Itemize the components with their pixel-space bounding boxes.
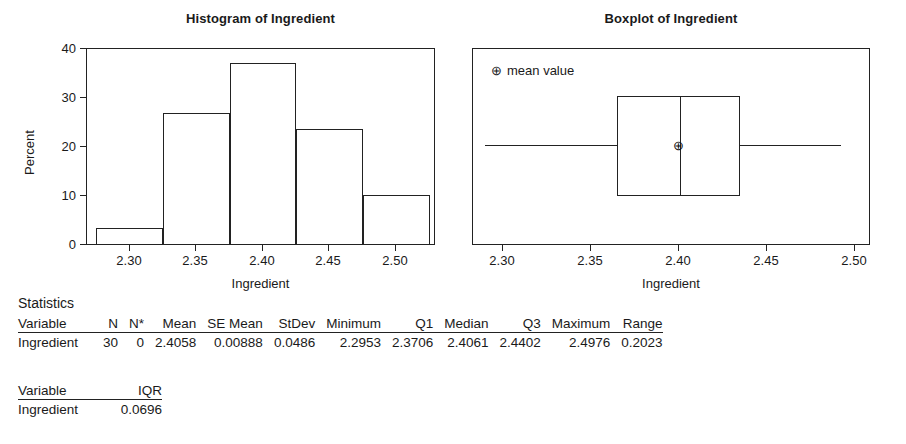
boxplot-x-tick-label-1: 2.30 [477, 253, 527, 268]
table-header-row: Variable N N* Mean SE Mean StDev Minimum… [18, 316, 663, 333]
histogram-x-tick-1 [129, 245, 130, 251]
histogram-bar-2 [163, 113, 230, 244]
cell-variable: Ingredient [18, 333, 92, 351]
cell-minimum: 2.2953 [315, 333, 381, 351]
boxplot-plot-frame: ⊕ ⊕ mean value [472, 48, 870, 245]
cell-median: 2.4061 [433, 333, 488, 351]
cell-se-mean: 0.00888 [196, 333, 263, 351]
histogram-plot-frame [86, 48, 435, 245]
histogram-x-tick-5 [395, 245, 396, 251]
col-maximum: Maximum [541, 316, 611, 333]
mean-value-icon: ⊕ [491, 63, 502, 78]
boxplot-legend-label: mean value [507, 63, 574, 78]
table-row: Ingredient 0.0696 [18, 400, 162, 418]
col-variable: Variable [18, 316, 92, 333]
cell-q1: 2.3706 [381, 333, 433, 351]
histogram-x-tick-label-2: 2.35 [170, 253, 220, 268]
boxplot-x-tick-label-5: 2.50 [829, 253, 879, 268]
cell-q3: 2.4402 [489, 333, 541, 351]
col-se-mean: SE Mean [196, 316, 263, 333]
boxplot-title: Boxplot of Ingredient [472, 11, 870, 26]
col-n: N [92, 316, 118, 333]
cell-stdev: 0.0486 [263, 333, 315, 351]
col-variable-iqr: Variable [18, 383, 92, 400]
col-stdev: StDev [263, 316, 315, 333]
boxplot-legend: ⊕ mean value [491, 63, 574, 78]
histogram-bar-3 [230, 63, 296, 244]
col-range: Range [610, 316, 662, 333]
y-tick-label-0: 0 [40, 237, 76, 252]
boxplot-x-tick-3 [678, 245, 679, 251]
histogram-bar-5 [363, 195, 430, 244]
cell-mean: 2.4058 [144, 333, 196, 351]
histogram-x-tick-label-5: 2.50 [370, 253, 420, 268]
histogram-bar-4 [296, 129, 363, 244]
y-tick-label-10: 10 [40, 188, 76, 203]
histogram-title: Histogram of Ingredient [86, 11, 435, 26]
boxplot-x-tick-label-2: 2.35 [565, 253, 615, 268]
col-iqr: IQR [92, 383, 162, 400]
boxplot-x-axis-title: Ingredient [472, 276, 870, 291]
y-tick-label-40: 40 [40, 41, 76, 56]
histogram-x-tick-label-1: 2.30 [104, 253, 154, 268]
boxplot-x-tick-1 [502, 245, 503, 251]
histogram-x-tick-4 [328, 245, 329, 251]
cell-range: 0.2023 [610, 333, 662, 351]
boxplot-x-tick-5 [854, 245, 855, 251]
boxplot-x-tick-4 [766, 245, 767, 251]
boxplot-x-tick-2 [590, 245, 591, 251]
boxplot-x-tick-label-3: 2.40 [653, 253, 703, 268]
boxplot-mean-marker: ⊕ [673, 139, 684, 152]
histogram-bar-1 [96, 228, 163, 244]
statistics-heading: Statistics [18, 295, 74, 311]
boxplot-right-whisker [740, 145, 841, 146]
histogram-x-tick-2 [195, 245, 196, 251]
statistics-table-iqr: Variable IQR Ingredient 0.0696 [18, 383, 162, 417]
cell-n: 30 [92, 333, 118, 351]
col-n-star: N* [118, 316, 144, 333]
y-tick-label-30: 30 [40, 90, 76, 105]
boxplot-left-whisker [485, 145, 618, 146]
cell-variable-iqr: Ingredient [18, 400, 92, 418]
col-minimum: Minimum [315, 316, 381, 333]
table-row: Ingredient 30 0 2.4058 0.00888 0.0486 2.… [18, 333, 663, 351]
statistics-table-main: Variable N N* Mean SE Mean StDev Minimum… [18, 316, 663, 350]
y-tick-label-20: 20 [40, 139, 76, 154]
col-median: Median [433, 316, 488, 333]
table-header-row: Variable IQR [18, 383, 162, 400]
boxplot-x-tick-label-4: 2.45 [741, 253, 791, 268]
histogram-x-tick-label-4: 2.45 [303, 253, 353, 268]
cell-iqr: 0.0696 [92, 400, 162, 418]
histogram-x-tick-label-3: 2.40 [237, 253, 287, 268]
col-mean: Mean [144, 316, 196, 333]
cell-maximum: 2.4976 [541, 333, 611, 351]
cell-n-star: 0 [118, 333, 144, 351]
histogram-x-tick-3 [262, 245, 263, 251]
col-q3: Q3 [489, 316, 541, 333]
col-q1: Q1 [381, 316, 433, 333]
histogram-x-axis-title: Ingredient [86, 276, 435, 291]
histogram-y-axis-title: Percent [22, 130, 37, 175]
